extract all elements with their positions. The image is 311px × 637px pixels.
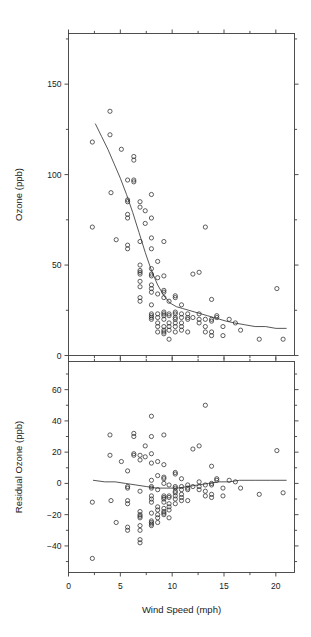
data-point: [238, 328, 242, 332]
data-point: [109, 499, 113, 503]
data-point: [108, 133, 112, 137]
data-point: [90, 556, 94, 560]
data-point: [221, 324, 225, 328]
data-point: [179, 488, 183, 492]
data-point: [156, 330, 160, 334]
data-point: [162, 433, 166, 437]
x-tick-label: 15: [219, 581, 229, 591]
y-axis-title: Residual Ozone (ppb): [13, 421, 24, 513]
data-point: [209, 495, 213, 499]
x-tick-label: 0: [66, 581, 71, 591]
data-point: [149, 461, 153, 465]
data-point: [162, 274, 166, 278]
data-point: [162, 500, 166, 504]
loess-fit-curve: [95, 124, 286, 328]
data-point: [125, 469, 129, 473]
y-tick-label: 40: [52, 416, 62, 426]
data-point: [138, 285, 142, 289]
data-point: [191, 315, 195, 319]
panel-residual-ozone-vs-wind: 05101520−40−200204060Residual Ozone (ppb…: [13, 358, 299, 615]
data-point: [179, 303, 183, 307]
data-point: [109, 191, 113, 195]
y-tick-label: 0: [57, 351, 62, 361]
data-point: [149, 216, 153, 220]
data-point: [156, 292, 160, 296]
data-points-residual-ozone-vs-wind: [90, 403, 285, 560]
data-point: [149, 452, 153, 456]
data-point: [149, 236, 153, 240]
data-point: [138, 200, 142, 204]
data-point: [125, 178, 129, 182]
data-point: [138, 528, 142, 532]
data-point: [209, 464, 213, 468]
data-point: [191, 447, 195, 451]
y-tick-label: 100: [47, 170, 61, 180]
data-point: [156, 276, 160, 280]
data-point: [221, 494, 225, 498]
data-point: [90, 140, 94, 144]
data-point: [197, 480, 201, 484]
data-point: [149, 303, 153, 307]
y-tick-label: 0: [57, 478, 62, 488]
data-point: [156, 459, 160, 463]
data-point: [138, 263, 142, 267]
x-tick-label: 10: [167, 581, 177, 591]
data-point: [108, 433, 112, 437]
data-point: [156, 520, 160, 524]
data-point: [149, 192, 153, 196]
data-point: [167, 483, 171, 487]
y-tick-label: −40: [47, 541, 62, 551]
y-tick-label: 20: [52, 447, 62, 457]
data-point: [138, 524, 142, 528]
data-point: [203, 225, 207, 229]
data-point: [197, 444, 201, 448]
data-point: [156, 259, 160, 263]
data-point: [90, 500, 94, 504]
data-point: [197, 270, 201, 274]
data-point: [143, 444, 147, 448]
data-point: [186, 499, 190, 503]
data-point: [162, 239, 166, 243]
data-point: [281, 491, 285, 495]
data-point: [138, 453, 142, 457]
data-point: [191, 272, 195, 276]
data-point: [203, 330, 207, 334]
data-point: [125, 528, 129, 532]
data-point: [119, 459, 123, 463]
data-point: [179, 499, 183, 503]
plot-frame: [69, 362, 295, 573]
data-point: [191, 484, 195, 488]
data-point: [257, 492, 261, 496]
data-point: [132, 431, 136, 435]
data-point: [257, 337, 261, 341]
data-point: [156, 474, 160, 478]
data-points-ozone-vs-wind: [90, 109, 285, 341]
data-point: [149, 434, 153, 438]
data-point: [203, 489, 207, 493]
data-point: [138, 458, 142, 462]
data-point: [149, 511, 153, 515]
data-point: [179, 477, 183, 481]
data-point: [167, 508, 171, 512]
data-point: [173, 502, 177, 506]
y-tick-label: −20: [47, 510, 62, 520]
data-point: [119, 147, 123, 151]
data-point: [108, 109, 112, 113]
data-point: [162, 463, 166, 467]
data-point: [149, 478, 153, 482]
data-point: [125, 502, 129, 506]
data-point: [138, 489, 142, 493]
data-point: [275, 448, 279, 452]
data-point: [108, 453, 112, 457]
x-axis-title: Wind Speed (mph): [142, 604, 221, 615]
x-tick-label: 20: [271, 581, 281, 591]
data-point: [238, 486, 242, 490]
data-point: [114, 520, 118, 524]
data-point: [221, 486, 225, 490]
y-tick-label: 150: [47, 79, 61, 89]
data-point: [203, 403, 207, 407]
data-point: [162, 481, 166, 485]
scatter-plot-figure: 050100150Ozone (ppb)05101520−40−20020406…: [0, 0, 311, 637]
data-point: [149, 247, 153, 251]
data-point: [275, 286, 279, 290]
